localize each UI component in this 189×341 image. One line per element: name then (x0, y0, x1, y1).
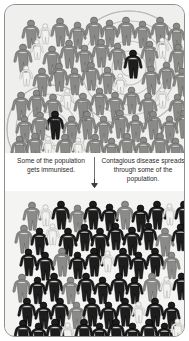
person-figure-unvaccinated (173, 68, 184, 96)
caption-immunised: Some of the population gets immunised. (11, 156, 91, 174)
person-figure-infected (140, 319, 158, 336)
person-figure-infected (29, 277, 47, 304)
crowd-after-svg (5, 191, 184, 336)
person-figure-immunised (163, 204, 177, 225)
person-figure-infected (85, 248, 103, 276)
figure-frame: Some of the population gets immunised. C… (4, 4, 185, 337)
person-figure-immunised (39, 205, 53, 226)
panel-before-immunisation (5, 5, 184, 153)
person-figure-immunised (160, 277, 174, 298)
crowd-before-svg (5, 5, 184, 153)
person-figure-infected (172, 224, 184, 251)
person-figure-immunised (132, 302, 146, 323)
person-figure-unvaccinated (123, 87, 141, 114)
person-figure-infected (94, 277, 112, 304)
person-figure-unvaccinated (13, 274, 31, 302)
herd-immunity-figure: Some of the population gets immunised. C… (0, 0, 189, 341)
person-figure-unvaccinated (53, 248, 71, 276)
person-figure-infected (31, 228, 49, 255)
caption-band: Some of the population gets immunised. C… (5, 153, 184, 191)
caption-spread: Contagious disease spreads through some … (97, 156, 185, 184)
person-figure-unvaccinated (143, 273, 161, 301)
person-figure-unvaccinated (163, 252, 181, 279)
person-figure-infected (126, 277, 144, 304)
panel-after-spread (5, 191, 184, 336)
person-figure-immunised (39, 24, 52, 44)
vertical-divider (94, 157, 95, 180)
person-figure-infected (110, 273, 128, 301)
person-figure-infected (130, 252, 148, 279)
person-figure-unvaccinated (12, 92, 30, 120)
